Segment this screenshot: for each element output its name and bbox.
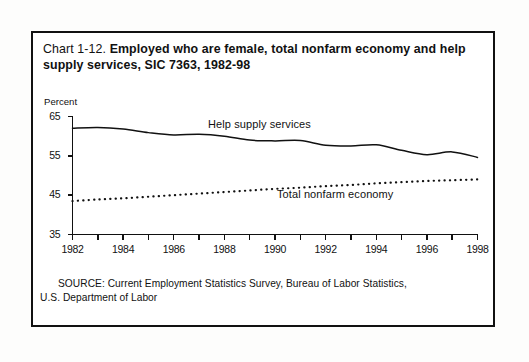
y-axis-tick-label: 45 xyxy=(35,188,61,200)
chart-title: Chart 1-12. Employed who are female, tot… xyxy=(43,41,473,73)
x-axis-tick-label: 1990 xyxy=(255,243,295,255)
series-label-help-supply-services: Help supply services xyxy=(208,118,311,130)
y-axis-tick-label: 65 xyxy=(35,110,61,122)
x-axis-tick-label: 1984 xyxy=(103,243,143,255)
source-note-line-1: SOURCE: Current Employment Statistics Su… xyxy=(40,277,480,291)
source-note: SOURCE: Current Employment Statistics Su… xyxy=(40,277,480,305)
x-axis-tick-label: 1988 xyxy=(204,243,244,255)
y-axis-unit-label: Percent xyxy=(44,96,77,107)
x-axis-tick-label: 1982 xyxy=(53,243,93,255)
x-axis-tick-label: 1994 xyxy=(356,243,396,255)
y-axis-tick-label: 35 xyxy=(35,228,61,240)
chart-title-number: Chart 1-12. xyxy=(43,42,106,56)
x-axis-tick-label: 1986 xyxy=(154,243,194,255)
x-axis-tick-label: 1996 xyxy=(407,243,447,255)
source-note-line-2: U.S. Department of Labor xyxy=(40,292,157,303)
series-label-total-nonfarm-economy: Total nonfarm economy xyxy=(277,188,393,200)
x-axis-tick-label: 1992 xyxy=(306,243,346,255)
x-axis-tick-label: 1998 xyxy=(458,243,498,255)
chart-title-text: Employed who are female, total nonfarm e… xyxy=(43,42,466,72)
y-axis-tick-label: 55 xyxy=(35,149,61,161)
